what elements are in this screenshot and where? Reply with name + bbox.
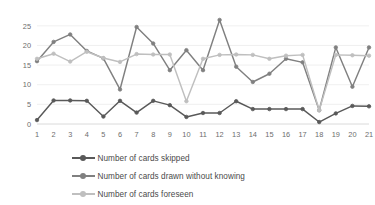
data-point: [234, 53, 238, 57]
data-point: [185, 48, 189, 52]
data-point: [68, 60, 72, 64]
legend-item-foreseen: Number of cards foreseen: [72, 186, 304, 202]
data-point: [284, 54, 288, 58]
x-tick-label: 8: [151, 130, 155, 139]
x-tick-label: 17: [298, 130, 306, 139]
x-tick-label: 10: [182, 130, 190, 139]
data-point: [151, 42, 155, 46]
data-point: [334, 112, 338, 116]
chart-legend: Number of cards skipped Number of cards …: [0, 148, 375, 205]
data-point: [185, 115, 189, 119]
series-lines: [35, 18, 371, 124]
data-point: [118, 60, 122, 64]
data-point: [351, 85, 355, 89]
data-point: [35, 118, 39, 122]
x-tick-label: 1: [35, 130, 39, 139]
y-tick-label: 15: [23, 61, 31, 70]
data-point: [268, 57, 272, 61]
legend-item-drawn-without-knowing: Number of cards drawn without knowing: [72, 168, 304, 184]
x-tick-label: 15: [265, 130, 273, 139]
data-point: [234, 99, 238, 103]
x-tick-label: 13: [232, 130, 240, 139]
x-tick-label: 2: [52, 130, 56, 139]
x-tick-label: 6: [118, 130, 122, 139]
y-tick-label: 25: [23, 22, 31, 31]
y-tick-label: 0: [27, 120, 31, 129]
data-point: [317, 120, 321, 124]
data-point: [102, 56, 106, 60]
data-point: [367, 46, 371, 50]
x-tick-label: 4: [85, 130, 89, 139]
x-tick-label: 14: [249, 130, 257, 139]
data-point: [351, 54, 355, 58]
x-tick-label: 20: [348, 130, 356, 139]
data-point: [317, 109, 321, 113]
data-point: [301, 107, 305, 111]
x-tick-label: 11: [199, 130, 207, 139]
data-point: [85, 99, 89, 103]
data-point: [201, 68, 205, 72]
data-point: [351, 104, 355, 108]
chart-plot-area: 0510152025 12345678910111213141516171819…: [0, 0, 375, 150]
data-point: [52, 99, 56, 103]
x-axis-tick-labels: 123456789101112131415161718192021: [35, 130, 373, 139]
legend-label-drawn-without-knowing: Number of cards drawn without knowing: [98, 172, 245, 181]
y-tick-label: 10: [23, 80, 31, 89]
x-tick-label: 3: [68, 130, 72, 139]
data-point: [334, 46, 338, 50]
data-point: [85, 50, 89, 54]
x-tick-label: 16: [282, 130, 290, 139]
data-point: [135, 111, 139, 115]
data-point: [367, 105, 371, 109]
data-point: [201, 111, 205, 115]
data-point: [367, 54, 371, 58]
y-axis-tick-labels: 0510152025: [23, 22, 31, 129]
data-point: [251, 53, 255, 57]
data-point: [52, 52, 56, 56]
data-point: [268, 107, 272, 111]
data-point: [334, 53, 338, 57]
x-tick-label: 7: [135, 130, 139, 139]
data-point: [218, 111, 222, 115]
data-point: [118, 88, 122, 92]
legend-item-skipped: Number of cards skipped: [72, 150, 304, 166]
data-point: [218, 18, 222, 22]
legend-marker-foreseen: [72, 189, 95, 199]
x-tick-label: 5: [101, 130, 105, 139]
data-point: [168, 103, 172, 107]
x-tick-label: 21: [365, 130, 373, 139]
y-tick-label: 5: [27, 100, 31, 109]
x-tick-label: 18: [315, 130, 323, 139]
data-point: [201, 57, 205, 61]
x-tick-label: 12: [215, 130, 223, 139]
data-point: [151, 99, 155, 103]
data-point: [135, 52, 139, 56]
legend-label-skipped: Number of cards skipped: [98, 154, 190, 163]
data-point: [268, 72, 272, 76]
x-tick-label: 19: [332, 130, 340, 139]
data-point: [68, 33, 72, 37]
data-point: [151, 53, 155, 57]
data-point: [234, 65, 238, 69]
data-point: [35, 57, 39, 61]
data-point: [68, 99, 72, 103]
data-point: [168, 68, 172, 72]
legend-label-foreseen: Number of cards foreseen: [98, 190, 194, 199]
data-point: [135, 25, 139, 29]
line-chart: 0510152025 12345678910111213141516171819…: [0, 0, 375, 205]
data-point: [218, 53, 222, 57]
x-tick-label: 9: [168, 130, 172, 139]
data-point: [301, 53, 305, 57]
data-point: [185, 99, 189, 103]
data-point: [284, 107, 288, 111]
legend-marker-skipped: [72, 153, 95, 163]
data-point: [52, 40, 56, 44]
series-2: [35, 50, 371, 112]
data-point: [251, 80, 255, 84]
data-point: [168, 53, 172, 57]
y-tick-label: 20: [23, 41, 31, 50]
data-point: [251, 107, 255, 111]
data-point: [118, 99, 122, 103]
legend-marker-drawn-without-knowing: [72, 171, 95, 181]
data-point: [102, 115, 106, 119]
